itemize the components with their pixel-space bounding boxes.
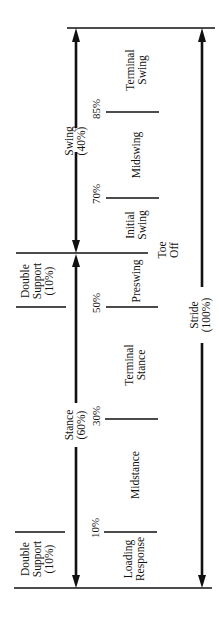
stride-arrow-down-head	[198, 575, 206, 588]
swing-label: Swing (40%)	[63, 111, 89, 171]
phase-preswing: Preswing	[130, 251, 144, 311]
toe-off-label: Toe Off	[156, 233, 182, 267]
phase-midstance: Midstance	[129, 442, 143, 508]
double-support-upper-label: Double Support (10%)	[19, 253, 57, 309]
phase-midswing: Midswing	[130, 123, 144, 187]
phase-terminal-swing: Terminal Swing	[124, 38, 150, 102]
double-support-lower-label: Double Support (10%)	[19, 531, 57, 587]
percent-50: 50%	[90, 288, 102, 318]
swing-arrow-down-head	[72, 240, 80, 253]
percent-70: 70%	[90, 179, 102, 209]
stride-arrow-up-head	[198, 28, 206, 42]
stance-label: Stance (60%)	[63, 395, 89, 455]
phase-terminal-stance: Terminal Stance	[123, 333, 149, 397]
phase-initial-swing: Initial Swing	[124, 201, 150, 249]
phase-loading-response: Loading Response	[122, 522, 148, 596]
percent-30: 30%	[90, 401, 102, 431]
percent-10: 10%	[89, 513, 101, 543]
swing-arrow-up-head	[72, 28, 80, 42]
stance-arrow-down-head	[72, 575, 80, 588]
stance-arrow-up-head	[72, 254, 80, 267]
percent-85: 85%	[90, 94, 102, 124]
stride-label: Stride (100%)	[188, 282, 214, 348]
